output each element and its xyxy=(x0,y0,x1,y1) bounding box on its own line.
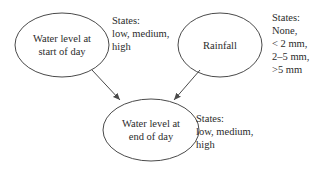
states-title: States: xyxy=(196,112,253,125)
state-line: high xyxy=(196,138,253,151)
node-water-start-label: Water level at start of day xyxy=(17,32,107,58)
edge-rainfall-to-end xyxy=(174,70,200,100)
node-water-end-states: States: low, medium, high xyxy=(196,112,253,151)
state-line: < 2 mm, xyxy=(272,37,309,50)
state-line: high xyxy=(112,40,169,53)
node-rainfall-label: Rainfall xyxy=(180,39,260,52)
states-title: States: xyxy=(112,14,169,27)
node-water-end-label: Water level at end of day xyxy=(106,117,196,143)
edge-water-start-to-end xyxy=(92,70,120,100)
states-title: States: xyxy=(272,11,309,24)
state-line: low, medium, xyxy=(196,125,253,138)
label-line: Water level at xyxy=(106,117,196,130)
label-line: end of day xyxy=(106,130,196,143)
state-line: low, medium, xyxy=(112,27,169,40)
label-line: Rainfall xyxy=(180,39,260,52)
node-rainfall-states: States: None, < 2 mm, 2–5 mm, >5 mm xyxy=(272,11,309,76)
label-line: Water level at xyxy=(17,32,107,45)
state-line: 2–5 mm, xyxy=(272,50,309,63)
state-line: None, xyxy=(272,24,309,37)
state-line: >5 mm xyxy=(272,63,309,76)
node-water-start-states: States: low, medium, high xyxy=(112,14,169,53)
label-line: start of day xyxy=(17,45,107,58)
